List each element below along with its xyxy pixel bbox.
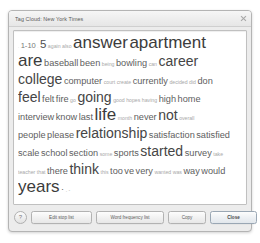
tag-cloud-word[interactable]: not (158, 108, 177, 122)
tag-cloud-line: collegecomputercourtcreatecurrentlydecid… (18, 70, 242, 88)
tag-cloud-word[interactable]: court (104, 80, 116, 85)
tag-cloud-word[interactable]: take (213, 152, 223, 157)
tag-cloud-word[interactable]: don (198, 77, 213, 86)
window-title: Tag Cloud: New York Times (15, 16, 240, 22)
tag-cloud-word[interactable]: fire (56, 95, 69, 104)
tag-cloud-word[interactable]: interview (18, 113, 54, 122)
tag-cloud-word[interactable]: was (173, 170, 182, 175)
tag-cloud-word[interactable]: think (69, 162, 99, 176)
copy-button[interactable]: Copy (168, 211, 206, 224)
tag-cloud-line: feelfeltfiregogoinggoodhopeshavinghighho… (18, 88, 242, 106)
close-button[interactable]: Close (210, 211, 257, 224)
tag-cloud-word[interactable]: teacher (18, 170, 35, 175)
tag-cloud-panel[interactable]: .1-10.5againalsoanswerapartmentarebaseba… (13, 30, 247, 205)
tag-cloud-word[interactable]: can (149, 62, 157, 67)
tag-cloud-word[interactable]: also (62, 44, 72, 49)
tag-cloud-word[interactable]: some (100, 152, 113, 157)
help-button[interactable]: ? (14, 211, 27, 224)
tag-cloud-word[interactable]: there (47, 167, 68, 176)
tag-cloud-word[interactable]: life (95, 106, 117, 123)
tag-cloud-word[interactable]: college (18, 72, 62, 86)
word-frequency-list-button[interactable]: Word frequency list (96, 211, 164, 224)
tag-cloud-word[interactable]: again (48, 44, 61, 49)
tag-cloud-word[interactable]: currently (133, 77, 168, 86)
tag-cloud-word[interactable]: would (201, 167, 225, 176)
tag-cloud-word[interactable]: started (140, 144, 183, 158)
tag-cloud-word[interactable]: . (66, 188, 67, 193)
tag-cloud-line: peoplepleaserelationshipsatisfactionsati… (18, 124, 242, 142)
tag-cloud-word[interactable]: know (56, 113, 77, 122)
tag-cloud-word[interactable]: 5 (40, 39, 46, 51)
tag-cloud-word[interactable]: been (80, 59, 100, 68)
tag-cloud-word[interactable]: people (18, 131, 46, 140)
tag-cloud-word[interactable]: . (18, 45, 19, 49)
tag-cloud-word[interactable]: feel (18, 90, 41, 104)
tag-cloud-word[interactable]: · (61, 185, 64, 194)
tag-cloud-word[interactable]: create (117, 80, 131, 85)
tag-cloud-word[interactable]: last (79, 113, 93, 122)
tag-cloud: .1-10.5againalsoanswerapartmentarebaseba… (14, 31, 246, 196)
edit-stop-list-button[interactable]: Edit stop list (31, 211, 92, 224)
close-x-icon[interactable] (240, 15, 247, 22)
tag-cloud-word[interactable]: years (18, 178, 60, 195)
tag-cloud-word[interactable]: that (37, 170, 46, 175)
tag-cloud-word[interactable]: this (101, 170, 109, 175)
tag-cloud-word[interactable]: felt (42, 95, 54, 104)
tag-cloud-word[interactable]: good (113, 98, 125, 103)
tag-cloud-dialog: Tag Cloud: New York Times .1-10.5againal… (8, 10, 252, 232)
tag-cloud-word[interactable]: apartment (129, 34, 206, 51)
tag-cloud-line: arebaseballbeenbeingbowlingcancareer (18, 52, 242, 70)
tag-cloud-word[interactable]: school (41, 149, 68, 158)
tag-cloud-line: teacherthattherethinkthistooveverywanted… (18, 160, 242, 178)
tag-cloud-line: interviewknowlastlifemonthnevernotoveral… (18, 106, 242, 124)
tag-cloud-word[interactable]: high (159, 95, 176, 104)
tag-cloud-word[interactable]: way (183, 167, 199, 176)
tag-cloud-word[interactable]: scale (18, 149, 39, 158)
tag-cloud-line: years·.- (18, 178, 242, 196)
tag-cloud-word[interactable]: being (102, 62, 115, 67)
tag-cloud-word[interactable]: satisfaction (149, 131, 195, 140)
tag-cloud-word[interactable]: computer (64, 77, 102, 86)
tag-cloud-word[interactable]: - (69, 188, 71, 193)
tag-cloud-word[interactable]: home (178, 95, 201, 104)
tag-cloud-word[interactable]: 1-10 (21, 42, 36, 50)
tag-cloud-word[interactable]: survey (185, 149, 212, 158)
tag-cloud-word[interactable]: hopes (126, 98, 140, 103)
tag-cloud-word[interactable]: career (159, 54, 199, 68)
tag-cloud-word[interactable]: are (18, 52, 43, 69)
tag-cloud-word[interactable]: too (110, 167, 123, 176)
tag-cloud-word[interactable]: overall (179, 116, 194, 121)
tag-cloud-word[interactable]: never (134, 113, 157, 122)
tag-cloud-word[interactable]: . (37, 45, 38, 49)
tag-cloud-word[interactable]: answer (73, 34, 128, 51)
tag-cloud-word[interactable]: bowling (116, 59, 147, 68)
tag-cloud-word[interactable]: going (77, 90, 111, 104)
tag-cloud-word[interactable]: baseball (44, 59, 78, 68)
tag-cloud-word[interactable]: month (118, 116, 132, 121)
tag-cloud-word[interactable]: having (142, 98, 157, 103)
tag-cloud-word[interactable]: very (136, 167, 153, 176)
tag-cloud-line: scaleschoolsectionsomesportsstartedsurve… (18, 142, 242, 160)
tag-cloud-word[interactable]: sports (114, 149, 139, 158)
tag-cloud-word[interactable]: please (47, 131, 74, 140)
tag-cloud-word[interactable]: satisfied (196, 131, 230, 140)
tag-cloud-word[interactable]: section (69, 149, 98, 158)
tag-cloud-word[interactable]: ve (124, 167, 134, 176)
tag-cloud-word[interactable]: relationship (76, 126, 148, 140)
tag-cloud-word[interactable]: go (70, 98, 76, 103)
tag-cloud-word[interactable]: wanted (154, 170, 171, 175)
titlebar[interactable]: Tag Cloud: New York Times (9, 11, 251, 27)
tag-cloud-line: .1-10.5againalsoanswerapartment (18, 34, 242, 52)
dialog-button-bar: ? Edit stop list Word frequency list Cop… (9, 205, 251, 231)
tag-cloud-word[interactable]: did (189, 80, 196, 85)
tag-cloud-word[interactable]: decided (169, 80, 187, 85)
